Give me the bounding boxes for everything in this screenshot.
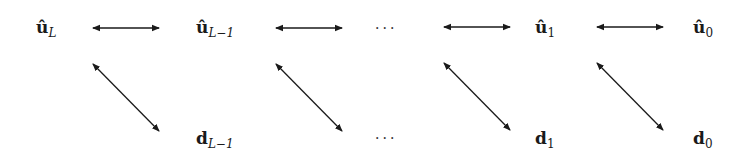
double-arrow bbox=[597, 63, 663, 130]
node-u-hat-1: û1 bbox=[535, 19, 555, 39]
bottom-ellipsis: ··· bbox=[375, 130, 397, 146]
node-d-1: d1 bbox=[535, 130, 555, 150]
node-u-hat-0: û0 bbox=[693, 19, 713, 39]
double-arrow bbox=[444, 63, 510, 130]
node-d-0: d0 bbox=[693, 130, 713, 150]
double-arrow bbox=[93, 64, 159, 131]
node-u-hat-L: ûL bbox=[36, 19, 56, 39]
node-u-hat-L-minus-1: ûL−1 bbox=[196, 19, 234, 39]
node-d-L-minus-1: dL−1 bbox=[196, 130, 234, 150]
diagonal-arrows bbox=[93, 63, 663, 131]
recursion-diagram: ûL ûL−1 ··· û1 û0 dL−1 ··· d1 d0 bbox=[0, 0, 752, 160]
top-ellipsis: ··· bbox=[375, 20, 397, 36]
double-arrow bbox=[276, 64, 342, 131]
